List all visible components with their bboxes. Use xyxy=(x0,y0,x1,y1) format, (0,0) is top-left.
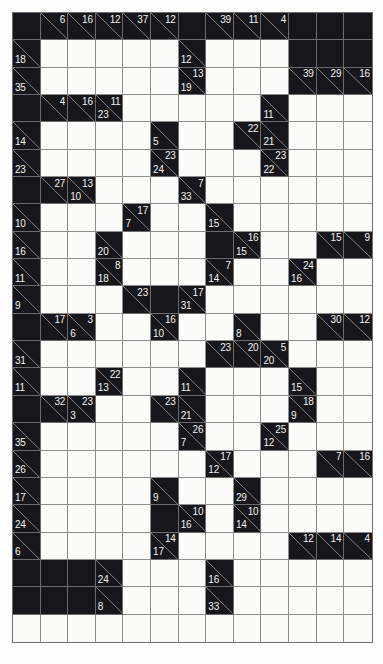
open-cell[interactable] xyxy=(317,341,345,368)
open-cell[interactable] xyxy=(317,177,345,204)
open-cell[interactable] xyxy=(179,451,207,478)
open-cell[interactable] xyxy=(151,560,179,587)
open-cell[interactable] xyxy=(41,259,69,286)
open-cell[interactable] xyxy=(289,177,317,204)
open-cell[interactable] xyxy=(96,150,124,177)
open-cell[interactable] xyxy=(289,95,317,122)
open-cell[interactable] xyxy=(234,259,262,286)
open-cell[interactable] xyxy=(317,560,345,587)
open-cell[interactable] xyxy=(234,368,262,395)
open-cell[interactable] xyxy=(317,368,345,395)
open-cell[interactable] xyxy=(261,505,289,532)
open-cell[interactable] xyxy=(344,368,372,395)
open-cell[interactable] xyxy=(68,451,96,478)
open-cell[interactable] xyxy=(289,560,317,587)
open-cell[interactable] xyxy=(151,232,179,259)
open-cell[interactable] xyxy=(123,341,151,368)
open-cell[interactable] xyxy=(123,150,151,177)
open-cell[interactable] xyxy=(344,341,372,368)
open-cell[interactable] xyxy=(234,40,262,67)
open-cell[interactable] xyxy=(261,560,289,587)
open-cell[interactable] xyxy=(179,259,207,286)
open-cell[interactable] xyxy=(344,177,372,204)
open-cell[interactable] xyxy=(96,314,124,341)
open-cell[interactable] xyxy=(151,587,179,614)
open-cell[interactable] xyxy=(289,615,317,642)
open-cell[interactable] xyxy=(234,204,262,231)
open-cell[interactable] xyxy=(261,177,289,204)
open-cell[interactable] xyxy=(206,615,234,642)
open-cell[interactable] xyxy=(41,368,69,395)
open-cell[interactable] xyxy=(317,122,345,149)
open-cell[interactable] xyxy=(123,122,151,149)
open-cell[interactable] xyxy=(41,204,69,231)
open-cell[interactable] xyxy=(317,259,345,286)
open-cell[interactable] xyxy=(41,533,69,560)
open-cell[interactable] xyxy=(41,232,69,259)
open-cell[interactable] xyxy=(123,505,151,532)
open-cell[interactable] xyxy=(317,95,345,122)
open-cell[interactable] xyxy=(96,68,124,95)
open-cell[interactable] xyxy=(317,478,345,505)
open-cell[interactable] xyxy=(206,68,234,95)
open-cell[interactable] xyxy=(123,177,151,204)
open-cell[interactable] xyxy=(289,478,317,505)
open-cell[interactable] xyxy=(234,423,262,450)
open-cell[interactable] xyxy=(41,286,69,313)
open-cell[interactable] xyxy=(123,314,151,341)
open-cell[interactable] xyxy=(261,478,289,505)
open-cell[interactable] xyxy=(68,286,96,313)
open-cell[interactable] xyxy=(317,423,345,450)
open-cell[interactable] xyxy=(151,259,179,286)
open-cell[interactable] xyxy=(123,615,151,642)
open-cell[interactable] xyxy=(96,286,124,313)
open-cell[interactable] xyxy=(179,150,207,177)
open-cell[interactable] xyxy=(234,150,262,177)
open-cell[interactable] xyxy=(179,478,207,505)
open-cell[interactable] xyxy=(234,95,262,122)
open-cell[interactable] xyxy=(234,615,262,642)
open-cell[interactable] xyxy=(41,505,69,532)
open-cell[interactable] xyxy=(206,533,234,560)
open-cell[interactable] xyxy=(151,68,179,95)
open-cell[interactable] xyxy=(179,587,207,614)
open-cell[interactable] xyxy=(41,341,69,368)
open-cell[interactable] xyxy=(234,396,262,423)
open-cell[interactable] xyxy=(151,40,179,67)
open-cell[interactable] xyxy=(317,150,345,177)
open-cell[interactable] xyxy=(96,396,124,423)
open-cell[interactable] xyxy=(96,341,124,368)
open-cell[interactable] xyxy=(179,232,207,259)
open-cell[interactable] xyxy=(234,451,262,478)
open-cell[interactable] xyxy=(68,341,96,368)
open-cell[interactable] xyxy=(206,95,234,122)
open-cell[interactable] xyxy=(96,505,124,532)
open-cell[interactable] xyxy=(261,314,289,341)
open-cell[interactable] xyxy=(206,286,234,313)
kakuro-grid[interactable]: 6161237123911418123513193929164161123111… xyxy=(12,12,373,643)
open-cell[interactable] xyxy=(96,451,124,478)
open-cell[interactable] xyxy=(289,122,317,149)
open-cell[interactable] xyxy=(151,341,179,368)
open-cell[interactable] xyxy=(317,396,345,423)
open-cell[interactable] xyxy=(289,341,317,368)
open-cell[interactable] xyxy=(68,615,96,642)
open-cell[interactable] xyxy=(344,560,372,587)
open-cell[interactable] xyxy=(206,478,234,505)
open-cell[interactable] xyxy=(344,259,372,286)
open-cell[interactable] xyxy=(151,95,179,122)
open-cell[interactable] xyxy=(179,615,207,642)
open-cell[interactable] xyxy=(261,259,289,286)
open-cell[interactable] xyxy=(96,478,124,505)
open-cell[interactable] xyxy=(41,478,69,505)
open-cell[interactable] xyxy=(68,533,96,560)
open-cell[interactable] xyxy=(261,232,289,259)
open-cell[interactable] xyxy=(179,560,207,587)
open-cell[interactable] xyxy=(234,560,262,587)
open-cell[interactable] xyxy=(289,505,317,532)
open-cell[interactable] xyxy=(234,177,262,204)
open-cell[interactable] xyxy=(41,423,69,450)
open-cell[interactable] xyxy=(179,95,207,122)
open-cell[interactable] xyxy=(344,615,372,642)
open-cell[interactable] xyxy=(261,396,289,423)
